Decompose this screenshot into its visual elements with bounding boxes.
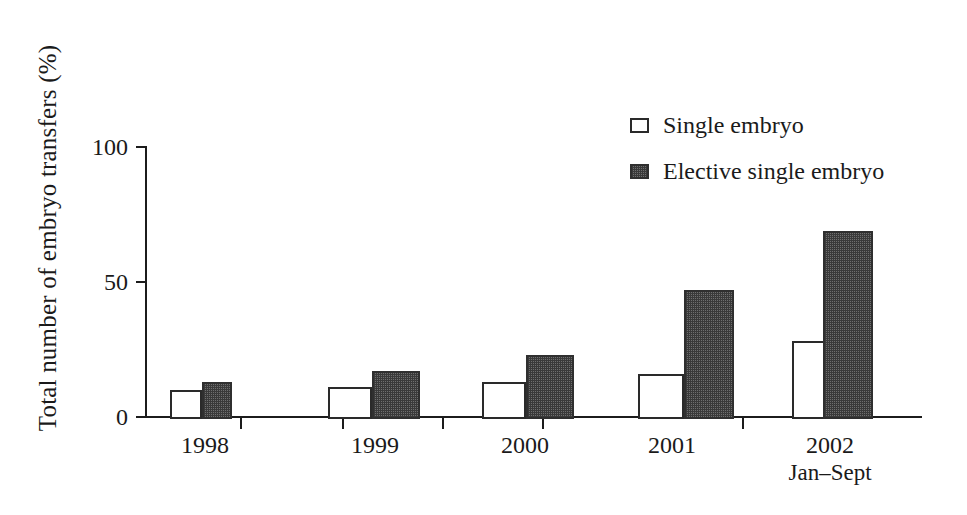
x-axis-tick bbox=[240, 418, 242, 429]
legend-item-label: Single embryo bbox=[663, 112, 804, 139]
x-axis-tick-label: 2001 bbox=[592, 432, 752, 460]
legend-item-label: Elective single embryo bbox=[663, 158, 884, 185]
bar bbox=[372, 371, 420, 419]
bar-chart-figure: Total number of embryo transfers (%) 050… bbox=[0, 0, 967, 515]
bar bbox=[823, 231, 873, 419]
legend-item: Elective single embryo bbox=[630, 154, 884, 188]
x-axis-tick-label-year: 2001 bbox=[648, 432, 696, 458]
chart-legend: Single embryoElective single embryo bbox=[630, 108, 884, 200]
bar bbox=[684, 290, 734, 419]
y-axis-tick-label: 100 bbox=[68, 135, 128, 159]
x-axis-tick bbox=[442, 418, 444, 429]
y-axis-tick-label: 50 bbox=[68, 270, 128, 294]
bar bbox=[638, 374, 684, 419]
bar bbox=[482, 382, 526, 419]
x-axis-tick-label-year: 1998 bbox=[181, 432, 229, 458]
legend-swatch-icon bbox=[630, 118, 649, 133]
legend-item: Single embryo bbox=[630, 108, 884, 142]
y-axis-title: Total number of embryo transfers (%) bbox=[28, 28, 68, 448]
x-axis-tick bbox=[342, 418, 344, 429]
bar bbox=[526, 355, 574, 419]
x-axis-tick-label-year: 1999 bbox=[351, 432, 399, 458]
x-axis-tick-label-period: Jan–Sept bbox=[750, 460, 910, 486]
x-axis-tick-label: 1999 bbox=[295, 432, 455, 460]
x-axis-tick-label: 2002Jan–Sept bbox=[750, 432, 910, 486]
y-axis-tick bbox=[136, 281, 147, 283]
y-axis-tick bbox=[136, 416, 147, 418]
x-axis-tick-label: 2000 bbox=[445, 432, 605, 460]
x-axis-tick-label: 1998 bbox=[125, 432, 285, 460]
bar bbox=[202, 382, 232, 419]
y-axis-tick-label: 0 bbox=[68, 405, 128, 429]
bar bbox=[170, 390, 202, 419]
x-axis-tick bbox=[742, 418, 744, 429]
x-axis-tick-label-year: 2002 bbox=[806, 432, 854, 458]
legend-swatch-icon bbox=[630, 164, 649, 179]
y-axis-tick bbox=[136, 146, 147, 148]
x-axis-tick-label-year: 2000 bbox=[501, 432, 549, 458]
bar bbox=[328, 387, 372, 419]
x-axis-tick bbox=[542, 418, 544, 429]
